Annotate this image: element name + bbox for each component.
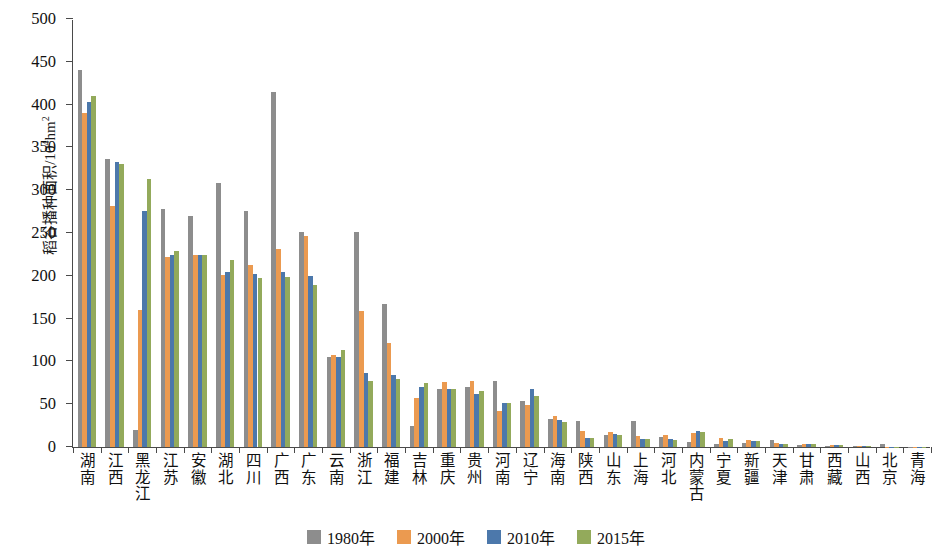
bar-group — [631, 20, 649, 447]
bar — [424, 383, 429, 447]
y-axis-tick — [66, 146, 73, 147]
y-axis-tick-label: 450 — [0, 54, 56, 71]
bar-group — [797, 20, 815, 447]
y-axis-tick-label: 200 — [0, 268, 56, 285]
y-axis-tick — [66, 275, 73, 276]
x-axis-tick-label: 河南 — [492, 452, 510, 485]
legend-label: 2015年 — [597, 525, 645, 549]
bar-group — [437, 20, 455, 447]
x-axis-tick-label: 上海 — [630, 452, 648, 485]
bar — [258, 278, 263, 447]
bar — [811, 444, 816, 447]
legend-label: 1980年 — [327, 525, 375, 549]
bar — [396, 379, 401, 447]
bar — [617, 435, 622, 447]
x-axis-tick-label: 江西 — [105, 452, 123, 485]
y-axis-tick-label: 300 — [0, 182, 56, 199]
x-axis-tick-label: 内蒙古 — [686, 452, 704, 502]
y-axis-tick — [66, 104, 73, 105]
bar-group — [576, 20, 594, 447]
bar-group — [548, 20, 566, 447]
bar-group — [465, 20, 483, 447]
legend-item[interactable]: 2000年 — [397, 525, 465, 549]
bar-group — [520, 20, 538, 447]
x-axis-tick-label: 海南 — [547, 452, 565, 485]
y-axis-tick-label: 250 — [0, 225, 56, 242]
bar-group — [770, 20, 788, 447]
bar — [147, 179, 152, 447]
bar — [507, 403, 512, 447]
bar — [230, 260, 235, 447]
x-axis-tick-label: 黑龙江 — [132, 452, 150, 502]
x-axis-tick-label: 贵州 — [464, 452, 482, 485]
legend-label: 2000年 — [417, 525, 465, 549]
bar — [783, 444, 788, 447]
legend-item[interactable]: 1980年 — [307, 525, 375, 549]
y-axis-tick — [66, 318, 73, 319]
bar-group — [410, 20, 428, 447]
x-axis-tick — [931, 447, 932, 453]
bar — [700, 432, 705, 447]
x-axis-tick-label: 福建 — [381, 452, 399, 485]
bar-group — [133, 20, 151, 447]
y-axis-tick — [66, 360, 73, 361]
x-axis-tick-label: 山西 — [852, 452, 870, 485]
y-axis-tick — [66, 446, 73, 447]
y-axis-tick-labels: 050100150200250300350400450500 — [0, 20, 64, 448]
legend-label: 2010年 — [507, 525, 555, 549]
x-axis-tick-label: 宁夏 — [713, 452, 731, 485]
legend-item[interactable]: 2015年 — [577, 525, 645, 549]
bar-group — [825, 20, 843, 447]
bar — [728, 439, 733, 447]
x-axis-tick-label: 山东 — [603, 452, 621, 485]
bar-group — [105, 20, 123, 447]
bar-group — [271, 20, 289, 447]
bar-group — [244, 20, 262, 447]
bar-group — [188, 20, 206, 447]
bar-group — [908, 20, 926, 447]
y-axis-tick-label: 400 — [0, 97, 56, 114]
y-axis-tick-label: 150 — [0, 311, 56, 328]
y-axis-tick-label: 100 — [0, 353, 56, 370]
bar-group — [327, 20, 345, 447]
bar — [202, 255, 207, 447]
x-axis-tick-label: 新疆 — [741, 452, 759, 485]
y-axis-tick — [66, 232, 73, 233]
bar — [91, 96, 96, 447]
x-axis-tick-label: 河北 — [658, 452, 676, 485]
bar-group — [742, 20, 760, 447]
plot-area — [72, 20, 930, 448]
x-axis-tick-label: 陕西 — [575, 452, 593, 485]
y-axis-tick-label: 0 — [0, 439, 56, 456]
bar — [451, 389, 456, 447]
bar-group — [604, 20, 622, 447]
bar-group — [354, 20, 372, 447]
bar — [839, 445, 844, 447]
bar-group — [853, 20, 871, 447]
bar — [645, 439, 650, 447]
legend-item[interactable]: 2010年 — [487, 525, 555, 549]
y-axis-tick-label: 500 — [0, 11, 56, 28]
x-axis-tick-label: 甘肃 — [796, 452, 814, 485]
legend-swatch-icon — [487, 530, 501, 544]
bar — [534, 396, 539, 447]
legend-swatch-icon — [307, 530, 321, 544]
chart-legend: 1980年2000年2010年2015年 — [0, 524, 952, 550]
x-axis-tick-label: 天津 — [769, 452, 787, 485]
bar-group — [161, 20, 179, 447]
bar — [866, 446, 871, 447]
bar-group — [659, 20, 677, 447]
x-axis-tick-label: 浙江 — [354, 452, 372, 485]
bar-group — [78, 20, 96, 447]
x-axis-tick-label: 吉林 — [409, 452, 427, 485]
bar — [590, 438, 595, 447]
x-axis-tick-label: 广西 — [271, 452, 289, 485]
bar-chart: 稻谷播种面积/104hm2 05010015020025030035040045… — [0, 0, 952, 550]
x-axis-tick-label: 青海 — [907, 452, 925, 485]
y-axis-tick-label: 50 — [0, 396, 56, 413]
bar-group — [880, 20, 898, 447]
bar-group — [299, 20, 317, 447]
x-axis-tick-label: 四川 — [243, 452, 261, 485]
legend-swatch-icon — [577, 530, 591, 544]
bar-group — [382, 20, 400, 447]
